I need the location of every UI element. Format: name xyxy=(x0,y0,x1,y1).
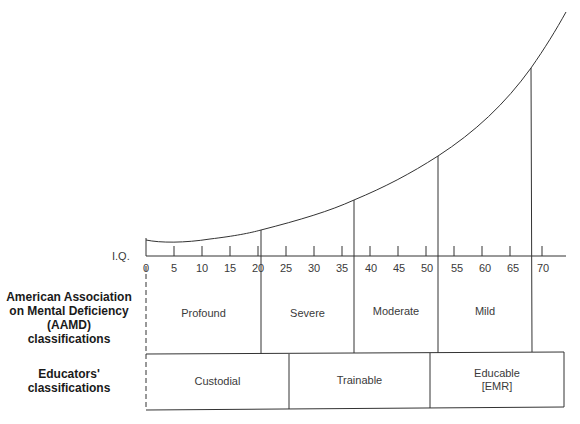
tick-label: 70 xyxy=(531,262,555,274)
tick-label: 10 xyxy=(190,262,214,274)
aamd-cell-severe: Severe xyxy=(261,300,354,326)
tick-label: 55 xyxy=(445,262,469,274)
tick-label: 0 xyxy=(134,262,158,274)
tick-label: 40 xyxy=(359,262,383,274)
tick-label: 45 xyxy=(387,262,411,274)
tick-label: 30 xyxy=(302,262,326,274)
tick-label: 5 xyxy=(162,262,186,274)
tick-label: 15 xyxy=(218,262,242,274)
tick-label: 25 xyxy=(274,262,298,274)
tick-label: 60 xyxy=(473,262,497,274)
educators-cell-trainable: Trainable xyxy=(289,353,430,408)
tick-label: 35 xyxy=(330,262,354,274)
aamd-row-title: American Association on Mental Deficienc… xyxy=(0,290,138,346)
axis-ticks xyxy=(174,246,542,256)
population-curve xyxy=(146,12,566,242)
tick-label: 50 xyxy=(415,262,439,274)
tick-label: 20 xyxy=(246,262,270,274)
educators-cell-educable: Educable [EMR] xyxy=(430,352,564,407)
aamd-cell-profound: Profound xyxy=(146,300,261,326)
iq-axis-label: I.Q. xyxy=(112,250,130,262)
educators-cell-custodial: Custodial xyxy=(146,354,289,409)
tick-label: 65 xyxy=(501,262,525,274)
aamd-cell-moderate: Moderate xyxy=(354,298,438,324)
educators-row-title: Educators' classifications xyxy=(0,367,138,395)
aamd-cell-mild: Mild xyxy=(438,298,532,324)
